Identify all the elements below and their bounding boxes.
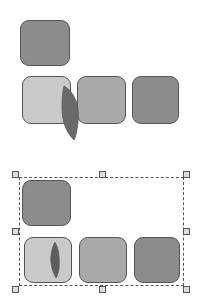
- resize-handle-middle-left[interactable]: [12, 228, 19, 235]
- resize-handle-bottom-right[interactable]: [183, 286, 190, 293]
- resize-handle-top-right[interactable]: [183, 171, 190, 178]
- resize-handle-top-left[interactable]: [12, 171, 19, 178]
- leaf-shape[interactable]: [60, 84, 82, 142]
- selection-bounding-box: [19, 177, 184, 286]
- rounded-square-bottom-2[interactable]: [77, 76, 126, 124]
- resize-handle-bottom-left[interactable]: [12, 286, 19, 293]
- resize-handle-top-center[interactable]: [99, 171, 106, 178]
- resize-handle-bottom-center[interactable]: [99, 286, 106, 293]
- resize-handle-middle-right[interactable]: [183, 228, 190, 235]
- rounded-square-bottom-3[interactable]: [132, 76, 179, 124]
- rounded-square-top[interactable]: [20, 20, 70, 66]
